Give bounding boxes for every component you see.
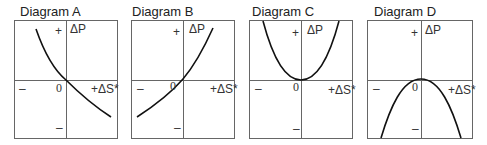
diagram-d-plot xyxy=(362,0,487,145)
minus-bottom-label: – xyxy=(174,122,181,134)
x-axis-label: +ΔS* xyxy=(91,83,119,95)
x-axis-label: +ΔS* xyxy=(210,83,238,95)
minus-bottom-label: – xyxy=(412,123,419,135)
diagram-c-plot xyxy=(240,0,365,145)
y-axis-label: ΔP xyxy=(70,23,86,35)
origin-label: 0 xyxy=(412,81,418,93)
minus-bottom-label: – xyxy=(293,123,300,135)
diagram-d: Diagram D + ΔP – 0 +ΔS* – xyxy=(362,0,487,145)
y-axis-label: ΔP xyxy=(307,24,323,36)
x-axis-label: +ΔS* xyxy=(328,84,356,96)
plus-label: + xyxy=(411,27,418,39)
minus-left-label: – xyxy=(137,83,144,95)
minus-left-label: – xyxy=(19,83,26,95)
plus-label: + xyxy=(292,27,299,39)
origin-label: 0 xyxy=(56,82,62,94)
minus-left-label: – xyxy=(373,83,380,95)
plus-label: + xyxy=(55,25,62,37)
origin-label: 0 xyxy=(170,80,176,92)
y-axis-label: ΔP xyxy=(189,23,205,35)
y-axis-label: ΔP xyxy=(425,24,441,36)
minus-bottom-label: – xyxy=(56,122,63,134)
diagram-b: Diagram B + ΔP – 0 +ΔS* – xyxy=(120,0,245,145)
plus-label: + xyxy=(173,26,180,38)
minus-left-label: – xyxy=(255,83,262,95)
diagram-a: Diagram A + ΔP – 0 +ΔS* – xyxy=(0,0,125,145)
diagram-c: Diagram C + ΔP – 0 +ΔS* – xyxy=(240,0,365,145)
diagram-b-plot xyxy=(120,0,245,145)
origin-label: 0 xyxy=(293,81,299,93)
x-axis-label: +ΔS* xyxy=(448,84,476,96)
